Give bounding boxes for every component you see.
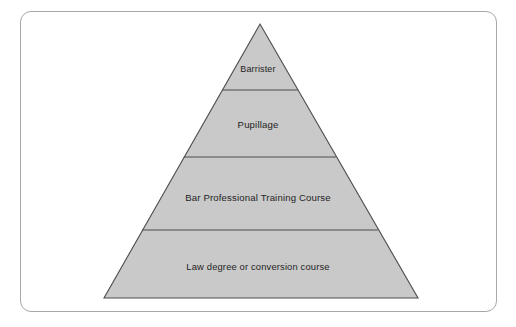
pyramid-tier-label-pupillage: Pupillage xyxy=(0,120,516,130)
pyramid-graphic xyxy=(0,0,516,327)
pyramid-tier-label-law-degree-or-conversion-course: Law degree or conversion course xyxy=(0,262,516,271)
pyramid-diagram-figure: Barrister Pupillage Bar Professional Tra… xyxy=(0,0,516,327)
pyramid-tier-label-bar-professional-training-course: Bar Professional Training Course xyxy=(0,193,516,203)
pyramid-tier-label-barrister: Barrister xyxy=(0,65,516,74)
